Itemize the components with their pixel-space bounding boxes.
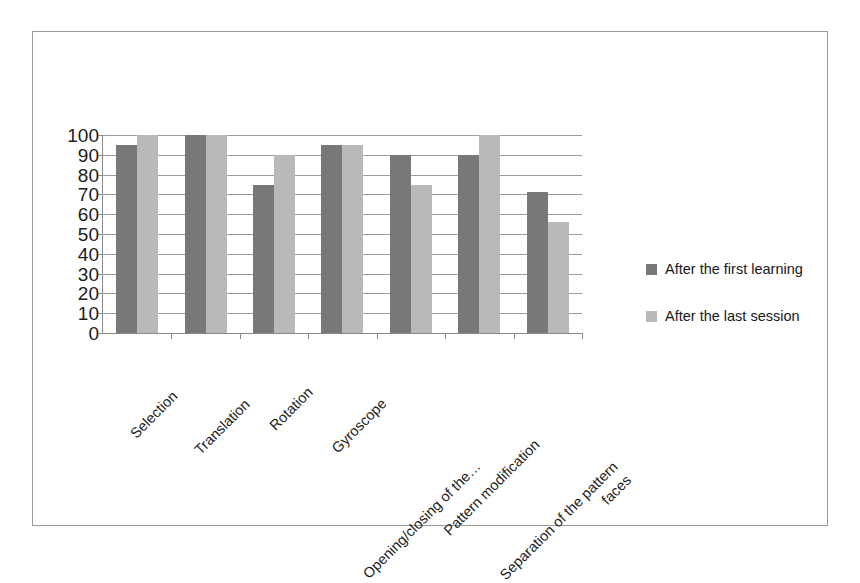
bar: [479, 135, 500, 333]
x-axis-category-label: Selection: [126, 387, 181, 442]
y-axis-tick-label: 100: [67, 126, 99, 145]
x-axis-tick: [514, 333, 515, 339]
bar-group: [240, 135, 308, 333]
y-axis-tick: [98, 333, 103, 334]
x-axis-category-label: Separation of the pattern faces: [496, 458, 635, 583]
legend-swatch-icon: [646, 264, 657, 275]
legend-label: After the first learning: [665, 261, 803, 277]
bar: [458, 155, 479, 333]
x-axis-tick: [445, 333, 446, 339]
x-axis-tick: [240, 333, 241, 339]
bar: [274, 155, 295, 333]
plot-area: [103, 135, 582, 333]
x-axis-category-label: Rotation: [266, 383, 317, 434]
chart-frame: 1009080706050403020100 SelectionTranslat…: [32, 31, 828, 526]
bar: [116, 145, 137, 333]
bar-group: [171, 135, 239, 333]
bar: [253, 185, 274, 334]
legend-item[interactable]: After the last session: [646, 307, 816, 325]
bar: [342, 145, 363, 333]
x-axis-category-label: Translation: [190, 395, 253, 458]
legend-swatch-icon: [646, 311, 657, 322]
y-axis-tick-label: 30: [78, 265, 99, 284]
y-axis-tick-label: 20: [78, 284, 99, 303]
x-axis-category-label: Gyroscope: [327, 395, 390, 458]
x-axis-line: [103, 333, 582, 334]
y-axis-tick-label: 40: [78, 245, 99, 264]
legend-item[interactable]: After the first learning: [646, 260, 816, 278]
bar-group: [377, 135, 445, 333]
bar-group: [514, 135, 582, 333]
bar: [206, 135, 227, 333]
y-axis-labels: 1009080706050403020100: [33, 135, 99, 333]
bar: [411, 185, 432, 334]
y-axis-tick-label: 80: [78, 166, 99, 185]
y-axis-tick-label: 90: [78, 146, 99, 165]
y-axis-tick-label: 70: [78, 185, 99, 204]
y-axis-tick-label: 50: [78, 225, 99, 244]
chart-legend: After the first learningAfter the last s…: [646, 260, 816, 354]
bar-group: [103, 135, 171, 333]
x-axis-tick: [171, 333, 172, 339]
x-axis-tick: [308, 333, 309, 339]
bar-group: [308, 135, 376, 333]
bar: [527, 192, 548, 333]
bar: [137, 135, 158, 333]
y-axis-tick-label: 10: [78, 304, 99, 323]
legend-label: After the last session: [665, 308, 800, 324]
bar: [321, 145, 342, 333]
bar-group: [445, 135, 513, 333]
bar: [548, 222, 569, 333]
bar: [390, 155, 411, 333]
x-axis-tick: [582, 333, 583, 339]
y-axis-tick-label: 60: [78, 205, 99, 224]
x-axis-tick: [377, 333, 378, 339]
bar: [185, 135, 206, 333]
